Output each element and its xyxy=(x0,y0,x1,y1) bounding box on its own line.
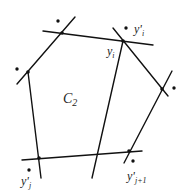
dot-right xyxy=(172,86,175,89)
label-yi: yi xyxy=(106,44,115,60)
points xyxy=(15,19,175,171)
vertex-top-left xyxy=(60,31,64,35)
label-yj-prime: y'j xyxy=(20,174,32,190)
right-line xyxy=(124,71,172,163)
dot-left xyxy=(15,67,18,70)
upper-left-line xyxy=(17,17,75,84)
dot-yi-prime xyxy=(124,26,127,29)
vertex-yi xyxy=(121,39,125,43)
dot-top-left xyxy=(56,19,59,22)
polygon-diagram: y'i yi C2 y'j y'j+1 xyxy=(0,0,185,196)
vertex-right xyxy=(160,87,164,91)
upper-right-line xyxy=(113,28,168,96)
label-yj1-prime: y'j+1 xyxy=(126,169,147,185)
left-line xyxy=(28,72,41,178)
lines xyxy=(17,17,172,178)
label-yi-prime: y'i xyxy=(133,22,144,38)
dot-yj1-prime xyxy=(131,159,134,162)
middle-line xyxy=(92,41,123,178)
vertex-bottom-right xyxy=(127,149,131,153)
dot-yj-prime xyxy=(27,168,30,171)
label-c2: C2 xyxy=(63,91,77,108)
vertex-bottom-left xyxy=(37,156,41,160)
vertex-left xyxy=(26,70,30,74)
